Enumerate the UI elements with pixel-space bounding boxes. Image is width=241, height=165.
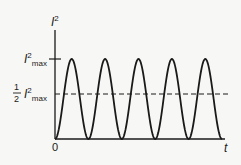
half-fraction-denominator: 2 (14, 94, 19, 104)
ytick-label-max: I2max (24, 51, 47, 68)
series-line-i-squared (55, 59, 222, 139)
y-axis-label: I2 (51, 14, 59, 29)
ytick-label-half: 1 2 I2max (13, 82, 47, 104)
half-fraction-numerator: 1 (14, 82, 19, 92)
x-axis-label: t (224, 141, 228, 155)
chart-svg: I2 I2max 1 2 I2max 0 t (0, 0, 241, 165)
half-max-symbol: I2max (24, 86, 47, 103)
origin-label: 0 (52, 141, 58, 153)
